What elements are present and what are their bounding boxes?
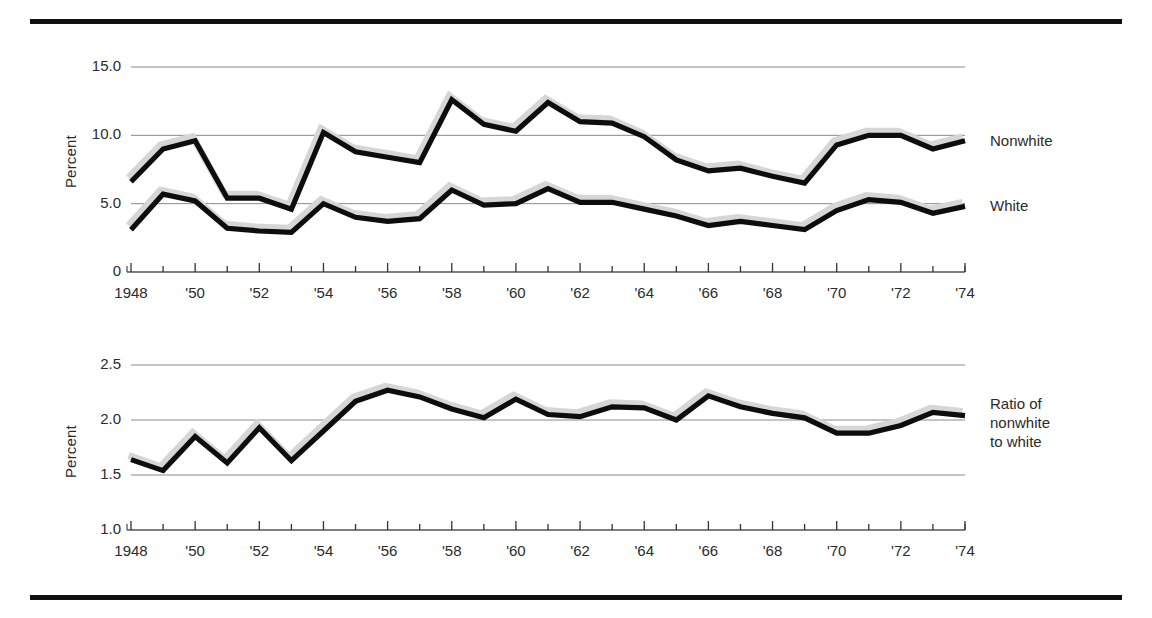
chart-ratio-nonwhite-to-white: Percent 1.01.52.02.51948'50'52'54'56'58'… xyxy=(0,340,1152,570)
x-axis-tick-label: 1948 xyxy=(114,284,147,301)
x-axis-tick-label: '58 xyxy=(442,284,462,301)
x-axis-tick-label: '64 xyxy=(634,284,654,301)
y-axis-tick-label: 15.0 xyxy=(60,57,121,74)
x-axis-tick-label: '66 xyxy=(699,542,719,559)
legend-ratio-line-1: Ratio of xyxy=(990,394,1050,413)
bottom-chart-canvas xyxy=(0,340,1152,570)
y-axis-tick-label: 10.0 xyxy=(60,125,121,142)
y-axis-tick-label: 5.0 xyxy=(60,194,121,211)
x-axis-tick-label: '72 xyxy=(891,284,911,301)
x-axis-tick-label: '64 xyxy=(634,542,654,559)
legend-ratio: Ratio ofnonwhiteto white xyxy=(990,394,1050,451)
x-axis-tick-label: '50 xyxy=(185,284,205,301)
x-axis-tick-label: '54 xyxy=(314,284,334,301)
legend-ratio-line-3: to white xyxy=(990,432,1050,451)
top-horizontal-rule xyxy=(30,19,1122,24)
y-axis-tick-label: 2.0 xyxy=(60,410,121,427)
x-axis-tick-label: '70 xyxy=(827,284,847,301)
x-axis-tick-label: '68 xyxy=(763,542,783,559)
x-axis-tick-label: '74 xyxy=(955,542,975,559)
y-axis-tick-label: 0 xyxy=(60,262,121,279)
x-axis-tick-label: '70 xyxy=(827,542,847,559)
top-chart-canvas xyxy=(0,40,1152,310)
x-axis-tick-label: '52 xyxy=(250,542,270,559)
figure-page: Percent 05.010.015.01948'50'52'54'56'58'… xyxy=(0,0,1152,618)
y-axis-tick-label: 1.5 xyxy=(60,465,121,482)
x-axis-tick-label: '66 xyxy=(699,284,719,301)
legend-white: White xyxy=(990,196,1028,215)
x-axis-tick-label: 1948 xyxy=(114,542,147,559)
x-axis-tick-label: '60 xyxy=(506,284,526,301)
x-axis-tick-label: '52 xyxy=(250,284,270,301)
series-shadow-ratio-of-nonwhite-to-white xyxy=(129,386,963,466)
x-axis-tick-label: '50 xyxy=(185,542,205,559)
y-axis-tick-label: 2.5 xyxy=(60,355,121,372)
chart-unemployment-by-race: Percent 05.010.015.01948'50'52'54'56'58'… xyxy=(0,40,1152,310)
x-axis-tick-label: '56 xyxy=(378,284,398,301)
y-axis-tick-label: 1.0 xyxy=(60,520,121,537)
bottom-horizontal-rule xyxy=(30,595,1122,600)
x-axis-tick-label: '56 xyxy=(378,542,398,559)
x-axis-tick-label: '72 xyxy=(891,542,911,559)
x-axis-tick-label: '62 xyxy=(570,284,590,301)
legend-nonwhite: Nonwhite xyxy=(990,131,1053,150)
legend-ratio-line-2: nonwhite xyxy=(990,413,1050,432)
x-axis-tick-label: '74 xyxy=(955,284,975,301)
x-axis-tick-label: '60 xyxy=(506,542,526,559)
x-axis-tick-label: '58 xyxy=(442,542,462,559)
x-axis-tick-label: '62 xyxy=(570,542,590,559)
x-axis-tick-label: '54 xyxy=(314,542,334,559)
x-axis-tick-label: '68 xyxy=(763,284,783,301)
